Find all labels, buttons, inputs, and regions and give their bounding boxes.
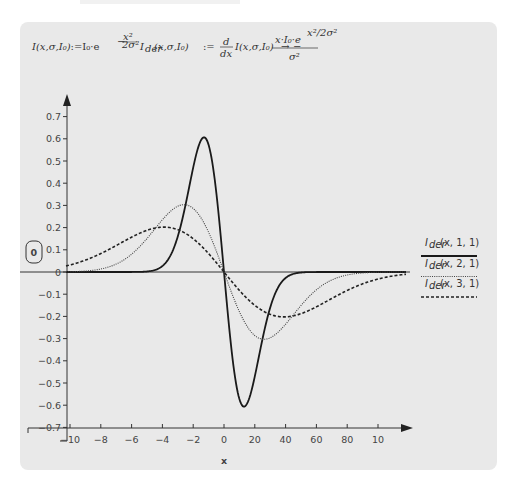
x-tick-label: 0 [221,434,227,445]
y-tick-label: 0.7 [46,111,61,122]
x-tick-label: −10 [60,434,80,445]
derivative-formula[interactable]: I der (x,σ,I₀) := d dx I(x,σ,I₀) → − x·I… [139,27,337,62]
legend-item: Ider(x, 2, 1) [421,258,479,277]
intensity-formula[interactable]: I(x,σ,I₀):=I₀·e − x² 2σ² [31,31,139,52]
y-tick-label: 0.3 [46,200,61,211]
chart-legend: Ider(x, 1, 1)Ider(x, 2, 1)Ider(x, 3, 1) [421,237,479,297]
legend-label-args: (x, 3, 1) [440,278,479,289]
legend-label-main: I [425,258,428,269]
derivative-lhs-args: (x,σ,I₀) [154,41,189,52]
intensity-assign: := [71,41,83,52]
region-badge[interactable]: 0 [26,241,42,263]
worksheet-canvas: I(x,σ,I₀):=I₀·e − x² 2σ² I der (x,σ,I₀) … [0,0,518,502]
x-tick-group: −10−8−6−4−202040608010 [60,424,384,445]
result-numerator: x·I₀·e [275,34,301,45]
x-tick-label: −4 [155,434,169,445]
x-axis-label: x [221,455,227,466]
exponent-denominator: 2σ² [121,39,139,50]
x-tick-label: 40 [280,434,292,445]
legend-label-main: I [425,278,428,289]
y-tick-label: 0.4 [46,178,61,189]
y-tick-label: 0.6 [46,133,61,144]
x-tick-label: −8 [94,434,108,445]
result-numerator-exponent: x²/2σ² [307,27,337,38]
x-tick-label: 20 [249,434,261,445]
y-tick-label: −0.7 [38,422,61,433]
plot-region[interactable]: 0.70.60.50.40.30.20.10−0.1−0.2−0.3−0.4−0… [20,94,413,466]
x-axis-arrow-icon [401,424,413,432]
legend-label-main: I [425,237,428,248]
y-tick-label: −0.2 [38,311,61,322]
derivative-assign: := [203,41,215,52]
x-tick-label: −2 [186,434,200,445]
legend-label-args: (x, 2, 1) [440,258,479,269]
legend-item: Ider(x, 3, 1) [421,278,479,297]
y-tick-label: −0.6 [38,400,61,411]
y-tick-label: −0.1 [38,289,61,300]
d-denominator: dx [220,48,232,59]
y-axis-arrow-icon [63,94,71,106]
region-badge-label: 0 [31,247,38,258]
y-tick-label: −0.4 [38,355,61,366]
legend-item: Ider(x, 1, 1) [421,237,479,256]
d-numerator: d [223,36,229,47]
y-tick-label: 0 [55,267,61,278]
x-tick-label: −6 [125,434,139,445]
result-denominator: σ² [289,51,300,62]
x-tick-label: 60 [310,434,322,445]
legend-label-args: (x, 1, 1) [440,237,479,248]
x-tick-label: 80 [341,434,353,445]
x-tick-label: 10 [372,434,384,445]
y-tick-label: 0.2 [46,222,61,233]
svg-text:I(x,σ,I₀):=I₀·e: I(x,σ,I₀):=I₀·e [31,41,99,52]
intensity-lhs: I(x,σ,I₀) [31,41,71,52]
y-tick-label: −0.5 [38,378,61,389]
y-tick-label: 0.1 [46,244,61,255]
derivative-argument: I(x,σ,I₀) [234,41,274,52]
y-tick-label: −0.3 [38,333,61,344]
intensity-rhs-base: I₀·e [82,41,99,52]
y-tick-label: 0.5 [46,156,61,167]
